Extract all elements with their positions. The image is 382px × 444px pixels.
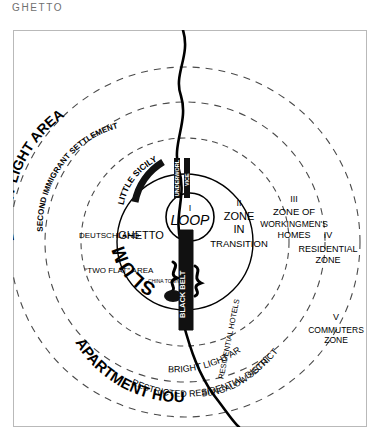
zone-ii-line1: ZONE	[224, 210, 255, 222]
zone-ii-line2: IN	[234, 223, 245, 235]
concentric-zone-diagram: I LOOP II ZONE IN TRANSITION III ZONE OF…	[13, 30, 367, 427]
label-vice: VICE	[184, 173, 190, 186]
zone-ii-numeral: II	[236, 198, 241, 208]
zone-iii-numeral: III	[290, 194, 298, 204]
label-ghetto-district: GHETTO	[118, 229, 164, 241]
diagram-svg: I LOOP II ZONE IN TRANSITION III ZONE OF…	[13, 30, 367, 427]
arc-text-residential-hotels-diagonal: RESIDENTIAL HOTELS	[216, 298, 241, 379]
label-china-town: CHINA TOWN	[148, 278, 180, 284]
page-caption: GHETTO	[12, 2, 63, 13]
slum-hatching-right	[195, 266, 201, 296]
screenshot-root: GHETTO	[0, 0, 382, 444]
arc-text-second-immigrant-settlement: SECOND IMMIGRANT SETTLEMENT	[36, 121, 119, 232]
label-two-flat-area: “TWO FLAT” AREA	[85, 266, 154, 275]
zone-iii-line1: ZONE OF	[273, 206, 315, 217]
zone-iii-line2: WORKINGMEN'S	[260, 219, 328, 229]
slum-hatching	[171, 262, 177, 292]
zone-v-numeral: V	[333, 312, 339, 322]
zone-i-name: LOOP	[171, 212, 211, 228]
zone-iii-line3: HOMES	[277, 230, 310, 240]
text-vice: VICE	[184, 173, 190, 186]
zone-iv-line2: ZONE	[315, 255, 340, 265]
zone-ii-line3: TRANSITION	[210, 238, 268, 249]
zone-iv-numeral: IV	[324, 230, 333, 240]
arc-label-residential-hotels-diagonal: RESIDENTIAL HOTELS	[216, 298, 241, 379]
zone-iv-line1: RESIDENTIAL	[298, 244, 357, 254]
arc-label-second-immigrant-settlement: SECOND IMMIGRANT SETTLEMENT	[36, 121, 119, 232]
zone-v-line2: ZONE	[324, 335, 348, 345]
zone-v-line1: COMMUTERS	[308, 325, 364, 335]
